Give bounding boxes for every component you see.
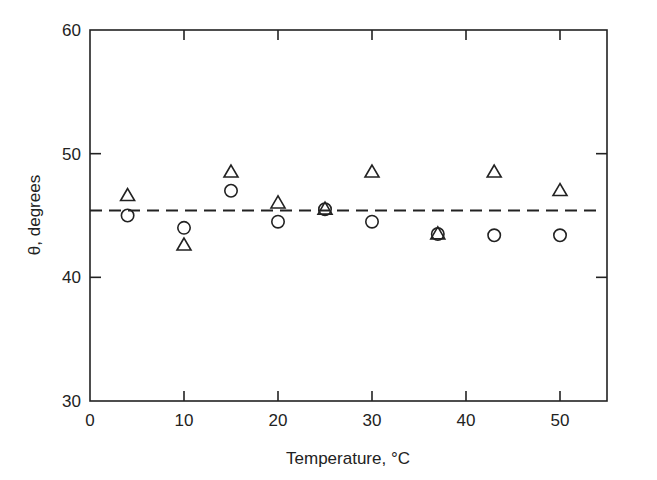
circle-marker — [178, 222, 190, 234]
y-tick-label: 30 — [62, 392, 81, 411]
y-axis-title: θ, degrees — [25, 175, 44, 255]
triangle-marker — [121, 189, 135, 201]
y-tick-label: 60 — [62, 21, 81, 40]
y-tick-label: 40 — [62, 268, 81, 287]
x-tick-label: 50 — [551, 411, 570, 430]
triangle-marker — [553, 184, 567, 196]
circle-marker — [121, 209, 133, 221]
x-tick-label: 30 — [363, 411, 382, 430]
circle-marker — [554, 229, 566, 241]
x-tick-label: 20 — [269, 411, 288, 430]
triangle-marker — [487, 165, 501, 177]
x-tick-label: 40 — [457, 411, 476, 430]
x-axis-title: Temperature, °C — [286, 449, 410, 468]
axis-tick-labels: 0102030405030405060 — [62, 21, 569, 430]
circle-marker — [488, 229, 500, 241]
triangle-marker — [365, 165, 379, 177]
axis-ticks — [90, 30, 607, 401]
scatter-chart: 0102030405030405060 Temperature, °C θ, d… — [0, 0, 657, 480]
triangle-marker — [271, 196, 285, 208]
x-tick-label: 10 — [175, 411, 194, 430]
circle-marker — [366, 215, 378, 227]
triangle-marker — [177, 238, 191, 250]
plot-border — [90, 30, 607, 401]
data-markers — [121, 165, 567, 250]
circle-marker — [225, 185, 237, 197]
x-tick-label: 0 — [85, 411, 94, 430]
triangle-marker — [224, 165, 238, 177]
y-tick-label: 50 — [62, 145, 81, 164]
plot-frame — [90, 30, 607, 401]
circle-marker — [272, 215, 284, 227]
